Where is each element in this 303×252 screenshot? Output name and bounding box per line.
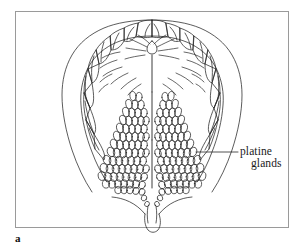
teeth-left-quadrant — [84, 20, 152, 160]
palatine-glands-left — [97, 91, 150, 207]
palatine-glands-right — [154, 91, 207, 207]
figure-caption-letter: a — [15, 232, 21, 244]
figure-root: platine glands a — [0, 0, 303, 252]
teeth-right-quadrant — [152, 20, 220, 160]
soft-palate-and-uvula — [112, 197, 192, 232]
label-platine: platine — [240, 145, 272, 157]
palate-illustration — [0, 0, 303, 252]
label-glands: glands — [251, 157, 282, 169]
